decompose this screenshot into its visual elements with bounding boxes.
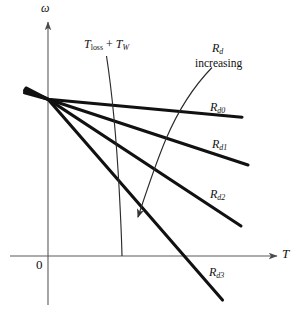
tloss-base: T xyxy=(84,37,91,51)
curve-label-rd0: Rd0 xyxy=(210,101,225,115)
tloss-tw-label: Tloss + TW xyxy=(84,38,129,52)
tloss-operator: + xyxy=(103,37,116,51)
rd0-subscript: d0 xyxy=(217,106,225,115)
tw-subscript: W xyxy=(122,43,129,52)
tloss-subscript: loss xyxy=(91,43,103,52)
torque-axis-label: T xyxy=(282,247,289,261)
rd3-subscript: d3 xyxy=(216,271,224,280)
origin-label: 0 xyxy=(36,258,43,272)
curve-label-rd1: Rd1 xyxy=(212,138,227,152)
rd-increasing-subscript: d xyxy=(219,47,223,56)
plot-canvas xyxy=(0,0,300,323)
tloss-tw-boundary-curve xyxy=(107,56,123,256)
curve-label-rd2: Rd2 xyxy=(210,188,225,202)
rd2-subscript: d2 xyxy=(217,193,225,202)
curve-label-rd3: Rd3 xyxy=(209,266,224,280)
rd-increasing-caption: increasing xyxy=(195,57,242,69)
rd-increasing-label: Rd increasing xyxy=(193,42,242,69)
rd1-subscript: d1 xyxy=(219,143,227,152)
torque-speed-characteristic-figure: ω T 0 Tloss + TW Rd increasing Rd0 Rd1 R… xyxy=(0,0,300,323)
omega-axis-label: ω xyxy=(41,2,49,15)
